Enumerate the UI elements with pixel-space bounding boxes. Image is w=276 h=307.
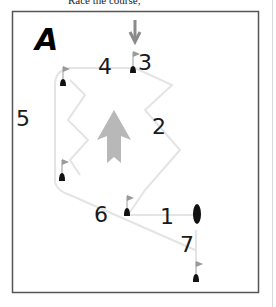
leg-label-7: 7 (180, 232, 194, 257)
buoy-lower-left (59, 159, 69, 181)
buoy-icon (60, 79, 66, 86)
leg-label-3: 3 (138, 50, 152, 75)
path-zigzag-left (68, 80, 88, 175)
path-leg-5-6 (55, 68, 195, 250)
flag-icon (127, 195, 134, 201)
flag-icon (62, 159, 69, 165)
buoy-bottom-mid (124, 195, 134, 216)
leg-label-1: 1 (160, 204, 174, 229)
path-leg-2 (128, 68, 180, 215)
race-course-diagram: A 1 2 3 4 5 6 7 (0, 0, 276, 307)
leg-label-5: 5 (16, 106, 30, 131)
leg-label-4: 4 (98, 54, 112, 79)
leg-label-6: 6 (94, 202, 108, 227)
flag-icon (63, 66, 70, 72)
wind-arrow-icon (130, 20, 140, 42)
buoy-upper-left (60, 66, 70, 86)
buoy-icon (193, 274, 199, 282)
buoy-icon (59, 173, 65, 181)
leg-label-2: 2 (152, 114, 166, 139)
committee-boat-icon (193, 204, 201, 224)
flag-icon (196, 261, 203, 267)
buoy-icon (124, 208, 130, 216)
panel-label: A (33, 22, 58, 57)
course-direction-arrow-icon (97, 110, 131, 163)
buoy-bottom-right (193, 261, 203, 282)
course-path (55, 68, 196, 265)
